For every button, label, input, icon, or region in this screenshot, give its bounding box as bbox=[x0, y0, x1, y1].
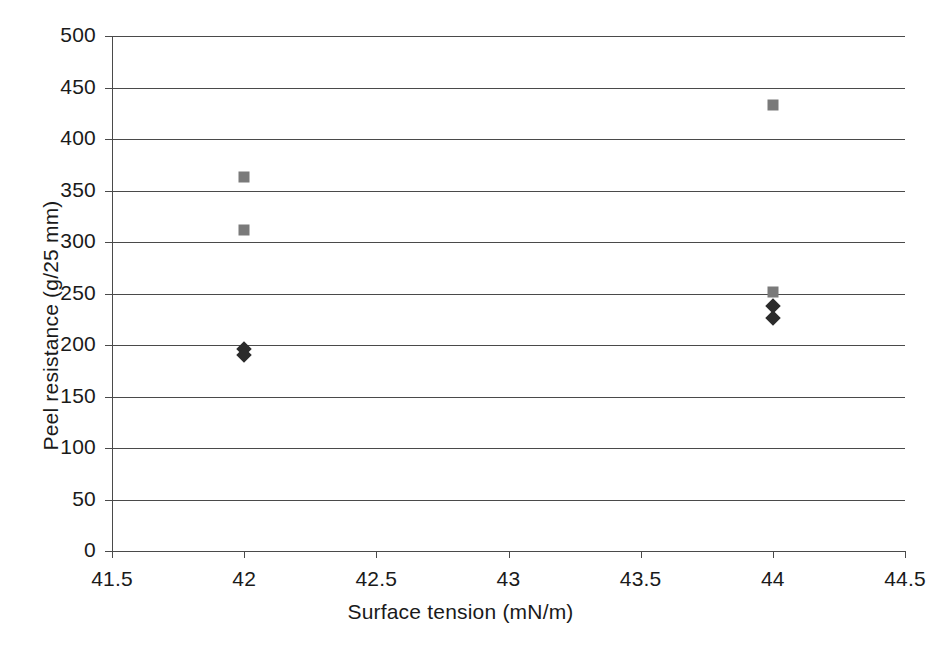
y-axis-title: Peel resistance (g/25 mm) bbox=[34, 0, 68, 651]
x-tick-mark-44 bbox=[773, 551, 774, 558]
y-tick-mark-0 bbox=[105, 551, 112, 552]
y-tick-mark-100 bbox=[105, 448, 112, 449]
x-tick-mark-42 bbox=[244, 551, 245, 558]
gridline-y-200 bbox=[112, 345, 905, 346]
gridline-y-350 bbox=[112, 191, 905, 192]
x-tick-label-42: 42 bbox=[194, 567, 294, 591]
data-point-square-44-251 bbox=[767, 287, 778, 298]
y-tick-mark-400 bbox=[105, 139, 112, 140]
gridline-y-100 bbox=[112, 448, 905, 449]
data-point-square-44-433 bbox=[767, 100, 778, 111]
x-tick-mark-44.5 bbox=[905, 551, 906, 558]
data-point-square-42-312 bbox=[239, 224, 250, 235]
y-tick-mark-200 bbox=[105, 345, 112, 346]
x-tick-label-42.5: 42.5 bbox=[326, 567, 426, 591]
y-tick-mark-250 bbox=[105, 294, 112, 295]
x-tick-mark-41.5 bbox=[112, 551, 113, 558]
gridline-y-300 bbox=[112, 242, 905, 243]
x-tick-label-43.5: 43.5 bbox=[591, 567, 691, 591]
x-tick-label-43: 43 bbox=[459, 567, 559, 591]
gridline-y-150 bbox=[112, 397, 905, 398]
x-tick-mark-43 bbox=[509, 551, 510, 558]
gridline-y-450 bbox=[112, 88, 905, 89]
y-tick-mark-450 bbox=[105, 88, 112, 89]
x-tick-label-44: 44 bbox=[723, 567, 823, 591]
data-point-square-42-363 bbox=[239, 172, 250, 183]
y-tick-mark-50 bbox=[105, 500, 112, 501]
gridline-y-50 bbox=[112, 500, 905, 501]
x-tick-label-41.5: 41.5 bbox=[62, 567, 162, 591]
x-axis-title: Surface tension (mN/m) bbox=[0, 600, 921, 624]
y-tick-mark-300 bbox=[105, 242, 112, 243]
x-tick-mark-43.5 bbox=[641, 551, 642, 558]
x-tick-mark-42.5 bbox=[376, 551, 377, 558]
x-tick-label-44.5: 44.5 bbox=[855, 567, 930, 591]
gridline-y-250 bbox=[112, 294, 905, 295]
y-tick-mark-150 bbox=[105, 397, 112, 398]
gridline-y-500 bbox=[112, 36, 905, 37]
gridline-y-400 bbox=[112, 139, 905, 140]
y-tick-mark-500 bbox=[105, 36, 112, 37]
y-axis-line bbox=[112, 36, 113, 551]
plot-area bbox=[112, 36, 905, 551]
y-tick-mark-350 bbox=[105, 191, 112, 192]
